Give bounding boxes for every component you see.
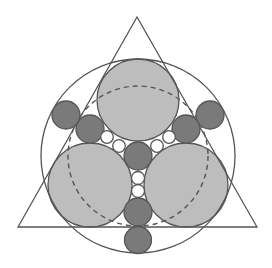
small-circle [113, 140, 126, 153]
small-circle [101, 131, 114, 144]
small-circle [132, 172, 145, 185]
dark-circle [52, 101, 80, 129]
dark-circle [125, 227, 152, 254]
dark-circle [76, 115, 104, 143]
dark-circle [172, 115, 200, 143]
large-circle [97, 59, 179, 141]
dark-circle [124, 142, 152, 170]
circle-packing-diagram [0, 0, 272, 268]
dark-circle [196, 101, 224, 129]
small-circle [151, 140, 164, 153]
small-circle [163, 131, 176, 144]
dark-circle [124, 198, 152, 226]
small-circle [132, 185, 145, 198]
